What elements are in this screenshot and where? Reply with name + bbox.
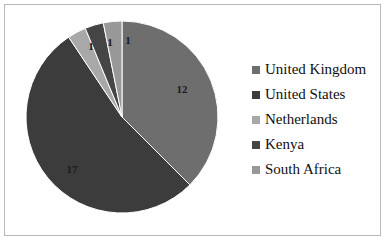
legend-item-united-kingdom[interactable]: United Kingdom [252,57,384,82]
legend-swatch-icon [252,166,260,174]
slice-label-united-kingdom: 12 [177,84,188,95]
slice-label-south-africa: 1 [125,35,131,46]
legend-item-united-states[interactable]: United States [252,82,384,107]
pie-chart-svg [22,17,222,217]
slice-label-united-states: 17 [67,164,78,175]
legend-item-south-africa[interactable]: South Africa [252,157,384,182]
legend-swatch-icon [252,66,260,74]
chart-figure: 12 17 1 1 1 United KingdomUnited StatesN… [0,0,387,242]
slice-label-kenya: 1 [107,37,113,48]
chart-legend: United KingdomUnited StatesNetherlandsKe… [252,57,384,182]
legend-item-label: Kenya [265,137,304,152]
legend-item-kenya[interactable]: Kenya [252,132,384,157]
slice-label-netherlands: 1 [88,41,94,52]
legend-item-netherlands[interactable]: Netherlands [252,107,384,132]
legend-swatch-icon [252,91,260,99]
legend-item-label: United Kingdom [265,62,366,77]
legend-swatch-icon [252,141,260,149]
legend-swatch-icon [252,116,260,124]
legend-item-label: United States [265,87,345,102]
legend-item-label: South Africa [265,162,341,177]
pie-slice-group [26,21,218,213]
legend-item-label: Netherlands [265,112,337,127]
